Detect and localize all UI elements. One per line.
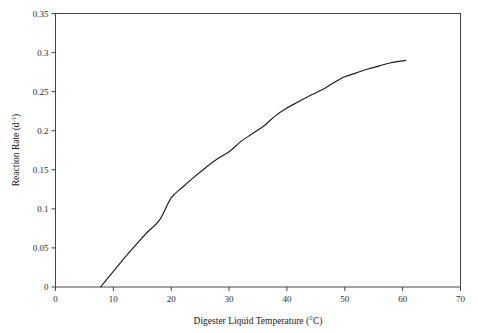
x-tick-label: 60 [398, 294, 408, 304]
y-tick-label: 0.15 [33, 165, 49, 175]
y-tick-label: 0.25 [33, 87, 49, 97]
reaction-rate-vs-temperature-chart: 00.050.10.150.20.250.30.35 0102030405060… [0, 0, 478, 333]
x-axis-title: Digester Liquid Temperature (°C) [194, 316, 323, 327]
x-tick-label: 30 [225, 294, 235, 304]
y-tick-label: 0.05 [33, 243, 49, 253]
x-tick-label: 0 [53, 294, 58, 304]
y-tick-label: 0.1 [37, 204, 48, 214]
x-tick-label: 40 [282, 294, 292, 304]
y-tick-label: 0.35 [33, 9, 49, 19]
x-tick-label: 50 [340, 294, 350, 304]
x-tick-label: 20 [167, 294, 177, 304]
y-tick-label: 0 [44, 282, 49, 292]
y-tick-label: 0.2 [37, 126, 48, 136]
chart-background [0, 0, 478, 333]
x-tick-label: 10 [109, 294, 119, 304]
y-axis-title: Reaction Rate (d-1) [10, 114, 23, 186]
y-axis-title-group: Reaction Rate (d-1) [10, 114, 23, 186]
x-tick-label: 70 [456, 294, 466, 304]
y-tick-label: 0.3 [37, 48, 49, 58]
chart-figure: 00.050.10.150.20.250.30.35 0102030405060… [0, 0, 478, 333]
